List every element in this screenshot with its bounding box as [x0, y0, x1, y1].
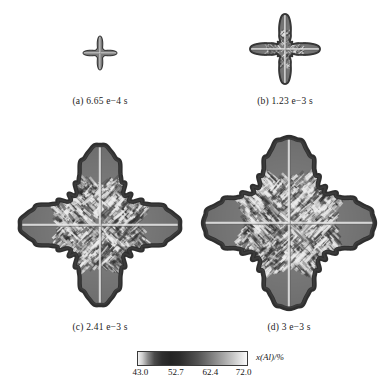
colorbar: 43.0 52.7 62.4 72.0	[137, 351, 248, 380]
dendrite-panel-d	[199, 128, 379, 318]
colorbar-tick-1: 52.7	[168, 367, 184, 377]
caption-b: (b) 1.23 e−3 s	[207, 96, 363, 106]
colorbar-tick-0: 43.0	[132, 367, 148, 377]
colorbar-label-text: x(Al)/%	[256, 352, 284, 362]
colorbar-tick-3: 72.0	[236, 367, 252, 377]
caption-a: (a) 6.65 e−4 s	[22, 96, 178, 106]
dendrite-panel-a	[22, 14, 178, 92]
caption-d: (d) 3 e−3 s	[199, 322, 379, 332]
dendrite-image-a	[22, 14, 178, 92]
colorbar-gradient	[137, 351, 248, 366]
dendrite-panel-c	[14, 132, 186, 318]
colorbar-axis-label: x(Al)/%	[256, 352, 284, 362]
colorbar-ticks: 43.0 52.7 62.4 72.0	[137, 366, 248, 380]
dendrite-image-b	[207, 6, 363, 92]
dendrite-panel-b	[207, 6, 363, 92]
caption-c: (c) 2.41 e−3 s	[14, 322, 186, 332]
dendrite-image-d	[199, 128, 379, 318]
dendrite-figure: (a) 6.65 e−4 s (b) 1.23 e−3 s (c) 2.41 e…	[0, 0, 385, 390]
colorbar-tick-2: 62.4	[202, 367, 218, 377]
dendrite-image-c	[14, 132, 186, 318]
